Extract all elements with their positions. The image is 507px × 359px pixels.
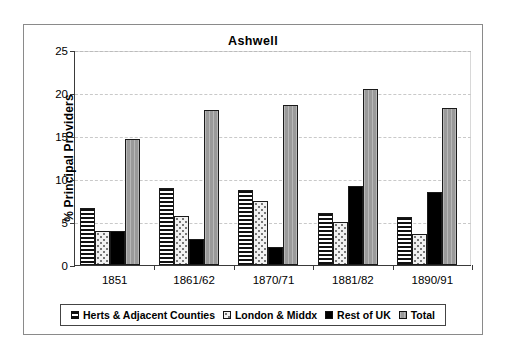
bar (110, 231, 125, 265)
bar-group (393, 51, 472, 265)
legend-swatch-icon (223, 311, 231, 319)
bar (159, 188, 174, 265)
bar (348, 186, 363, 265)
bar (442, 108, 457, 265)
bar-group (75, 51, 154, 265)
chart-title: Ashwell (24, 34, 482, 48)
bar (333, 222, 348, 265)
bar (80, 208, 95, 265)
bar (253, 201, 268, 266)
bar (238, 190, 253, 265)
x-tick-mark (472, 265, 473, 270)
bar (204, 110, 219, 265)
bar (363, 89, 378, 265)
legend-label: Herts & Adjacent Counties (83, 309, 215, 321)
legend-swatch-icon (325, 311, 333, 319)
y-tick-label: 10 (55, 174, 68, 186)
x-tick-label: 1851 (102, 274, 128, 286)
bar-group (234, 51, 313, 265)
chart-legend: Herts & Adjacent CountiesLondon & MiddxR… (60, 304, 446, 326)
bar (174, 216, 189, 265)
bar (268, 247, 283, 265)
x-tick-label: 1881/82 (332, 274, 374, 286)
bar (189, 239, 204, 265)
x-tick-label: 1870/71 (253, 274, 295, 286)
bar (283, 105, 298, 265)
x-tick-mark (234, 265, 235, 270)
x-tick-label: 1890/91 (412, 274, 454, 286)
legend-label: Rest of UK (337, 309, 391, 321)
bar (412, 234, 427, 265)
y-tick-mark (70, 266, 75, 267)
legend-item[interactable]: Rest of UK (325, 309, 391, 321)
y-tick-label: 20 (55, 88, 68, 100)
y-tick-label: 5 (62, 217, 68, 229)
legend-item[interactable]: London & Middx (223, 309, 317, 321)
bar-group (313, 51, 392, 265)
x-tick-mark (154, 265, 155, 270)
legend-swatch-icon (399, 311, 407, 319)
legend-item[interactable]: Herts & Adjacent Counties (71, 309, 215, 321)
bar (95, 231, 110, 265)
legend-label: London & Middx (235, 309, 317, 321)
legend-item[interactable]: Total (399, 309, 435, 321)
y-tick-label: 15 (55, 131, 68, 143)
bar-group (154, 51, 233, 265)
bar (427, 192, 442, 265)
legend-swatch-icon (71, 311, 79, 319)
bar (318, 213, 333, 265)
x-tick-label: 1861/62 (173, 274, 215, 286)
y-tick-label: 0 (62, 260, 68, 272)
legend-label: Total (411, 309, 435, 321)
chart-figure: Ashwell % Principal Providers 0510152025… (23, 24, 483, 335)
y-tick-label: 25 (55, 45, 68, 57)
bar (125, 139, 140, 265)
x-tick-mark (313, 265, 314, 270)
y-axis-label: % Principal Providers (62, 94, 76, 222)
x-tick-mark (393, 265, 394, 270)
bar (397, 217, 412, 265)
plot-area: % Principal Providers 0510152025 1851186… (74, 51, 471, 266)
